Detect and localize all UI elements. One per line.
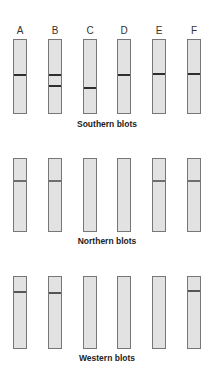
lane-label-b: B — [48, 26, 62, 36]
southern-band — [118, 74, 130, 76]
northern-lane-e — [152, 158, 166, 232]
western-band — [188, 290, 200, 292]
northern-lane-a — [13, 158, 27, 232]
northern-band — [14, 180, 26, 182]
lane-label-d: D — [117, 26, 131, 36]
lane-label-e: E — [152, 26, 166, 36]
northern-band — [49, 180, 61, 182]
western-lane-d — [117, 276, 131, 349]
northern-lane-f — [187, 158, 201, 232]
lane-label-f: F — [187, 26, 201, 36]
southern-band — [84, 87, 96, 89]
western-lane-f — [187, 276, 201, 349]
northern-band — [188, 180, 200, 182]
western-blots-title: Western blots — [0, 353, 214, 363]
western-lane-e — [152, 276, 166, 349]
northern-band — [153, 180, 165, 182]
southern-band — [49, 85, 61, 87]
western-band — [14, 291, 26, 293]
southern-band — [188, 73, 200, 75]
southern-blots-title: Southern blots — [0, 119, 214, 129]
northern-lane-d — [117, 158, 131, 232]
southern-lane-e — [152, 39, 166, 114]
southern-lane-c — [83, 39, 97, 114]
northern-lane-b — [48, 158, 62, 232]
southern-lane-d — [117, 39, 131, 114]
western-band — [49, 292, 61, 294]
western-lane-c — [83, 276, 97, 349]
southern-band — [153, 73, 165, 75]
western-lane-b — [48, 276, 62, 349]
lane-label-c: C — [83, 26, 97, 36]
southern-band — [14, 74, 26, 76]
northern-lane-c — [83, 158, 97, 232]
northern-blots-title: Northern blots — [0, 236, 214, 246]
southern-lane-a — [13, 39, 27, 114]
southern-lane-f — [187, 39, 201, 114]
lane-label-a: A — [13, 26, 27, 36]
western-lane-a — [13, 276, 27, 349]
southern-lane-b — [48, 39, 62, 114]
southern-band — [49, 74, 61, 76]
